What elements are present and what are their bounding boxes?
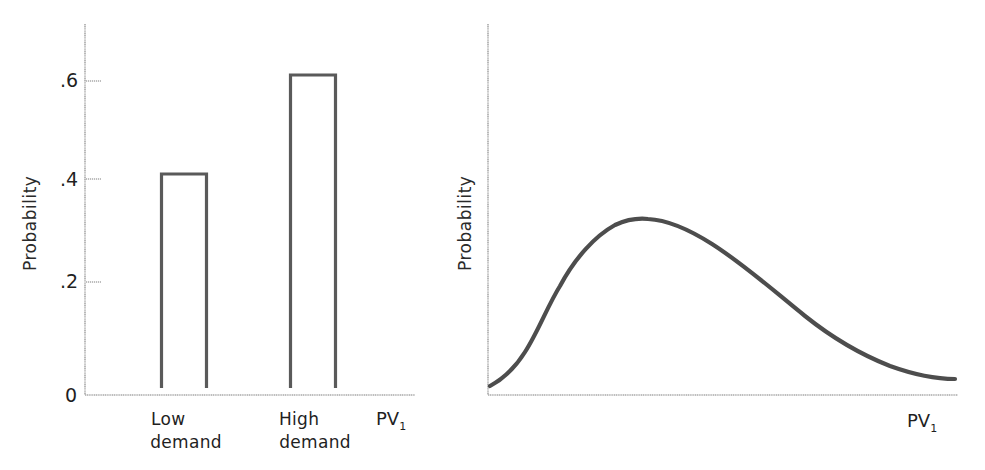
x-label-subscript: 1 (930, 422, 937, 435)
x-label-subscript: 1 (399, 420, 406, 433)
left-x-axis-label: PV1 (376, 408, 406, 433)
probability-curve (490, 219, 955, 386)
x-label-main: PV (376, 408, 399, 429)
x-label-main: PV (907, 410, 930, 431)
right-x-axis-label: PV1 (907, 410, 937, 435)
ytick-label-0.6: .6 (60, 71, 78, 90)
ytick-label-0.4: .4 (60, 170, 78, 189)
right-distribution-chart (488, 24, 958, 395)
category-label-low-demand: Low demand (146, 408, 226, 454)
bar-low-demand (162, 174, 207, 388)
left-bar-chart (85, 24, 415, 395)
left-y-axis-label: Probability (20, 191, 40, 271)
charts-canvas (0, 0, 985, 470)
category-line1: High (275, 408, 355, 431)
bar-high-demand (291, 75, 336, 388)
category-line1: Low (146, 408, 226, 431)
category-line2: demand (146, 431, 226, 454)
category-label-high-demand: High demand (275, 408, 355, 454)
ytick-label-0.2: .2 (60, 272, 78, 291)
ytick-label-0: 0 (65, 386, 77, 405)
right-y-axis-label: Probability (455, 191, 475, 271)
category-line2: demand (275, 431, 355, 454)
